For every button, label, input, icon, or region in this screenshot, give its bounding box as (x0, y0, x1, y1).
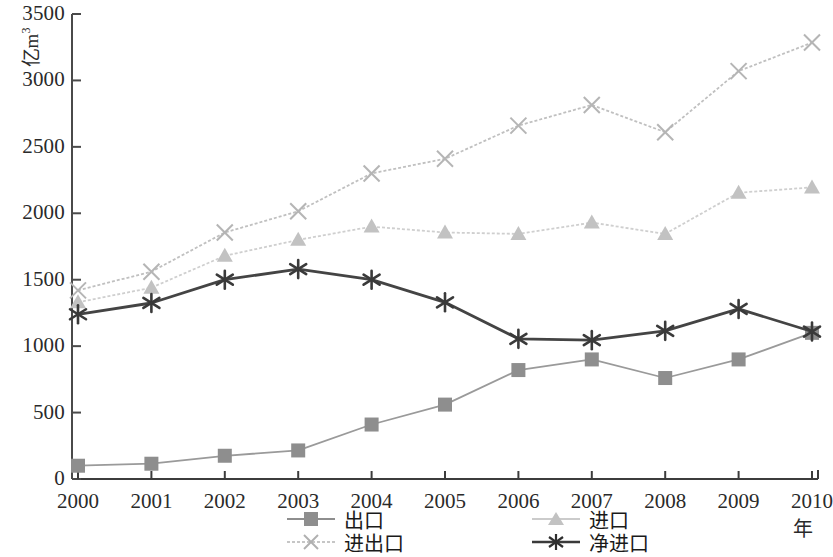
legend-label-net: 净进口 (589, 528, 649, 557)
y-axis-tick-label: 1500 (0, 269, 65, 290)
data-point-export-2000 (71, 459, 85, 473)
data-point-total-2001 (143, 264, 159, 280)
legend-label-total: 进出口 (344, 528, 404, 557)
data-point-total-2002 (217, 225, 233, 241)
data-point-net-2009 (731, 300, 747, 318)
y-axis-tick-label: 1000 (0, 335, 65, 356)
data-point-total-2003 (290, 203, 306, 219)
y-axis-tick-label: 0 (0, 468, 65, 489)
data-point-import-2008 (657, 226, 673, 240)
data-point-total-2009 (731, 63, 747, 79)
data-point-import-2007 (584, 215, 600, 229)
square-marker-icon (285, 509, 337, 529)
data-point-export-2007 (585, 352, 599, 366)
data-point-total-2005 (437, 151, 453, 167)
data-point-total-2008 (657, 124, 673, 140)
x-axis-tick-label: 2010 (772, 491, 833, 512)
triangle-marker-icon (530, 509, 582, 529)
y-axis-tick-label: 3500 (0, 3, 65, 24)
legend-item-net[interactable]: 净进口 (530, 531, 649, 553)
chart-legend: 出口 进口 进出口 (285, 508, 715, 552)
data-point-import-2009 (731, 185, 747, 199)
data-point-import-2004 (364, 219, 380, 233)
y-axis-tick-label: 2500 (0, 136, 65, 157)
data-point-import-2001 (143, 280, 159, 294)
data-point-export-2001 (144, 457, 158, 471)
y-axis-tick-label: 3000 (0, 69, 65, 90)
legend-item-total[interactable]: 进出口 (285, 531, 404, 553)
x-marker-icon (285, 532, 337, 552)
data-point-total-2004 (364, 165, 380, 181)
data-point-net-2005 (437, 293, 453, 311)
data-point-export-2002 (218, 449, 232, 463)
data-point-export-2003 (291, 443, 305, 457)
data-point-export-2008 (658, 371, 672, 385)
x-axis-tick-label: 2000 (38, 491, 118, 512)
series-net (70, 260, 820, 349)
series-import (70, 179, 820, 308)
data-point-total-2007 (584, 97, 600, 113)
x-axis-tick-label: 2002 (185, 491, 265, 512)
y-axis-tick-label: 2000 (0, 202, 65, 223)
series-export (71, 326, 819, 473)
data-point-export-2004 (365, 418, 379, 432)
series-line-import (78, 187, 812, 302)
series-total (70, 35, 820, 299)
data-point-export-2005 (438, 398, 452, 412)
data-point-import-2010 (804, 179, 820, 193)
series-line-total (78, 43, 812, 291)
asterisk-marker-icon (530, 532, 582, 552)
x-axis-tick-label: 2001 (111, 491, 191, 512)
data-point-export-2009 (732, 352, 746, 366)
data-point-total-2010 (804, 35, 820, 51)
data-point-export-2006 (511, 363, 525, 377)
y-axis-tick-label: 500 (0, 402, 65, 423)
data-point-total-2006 (510, 118, 526, 134)
